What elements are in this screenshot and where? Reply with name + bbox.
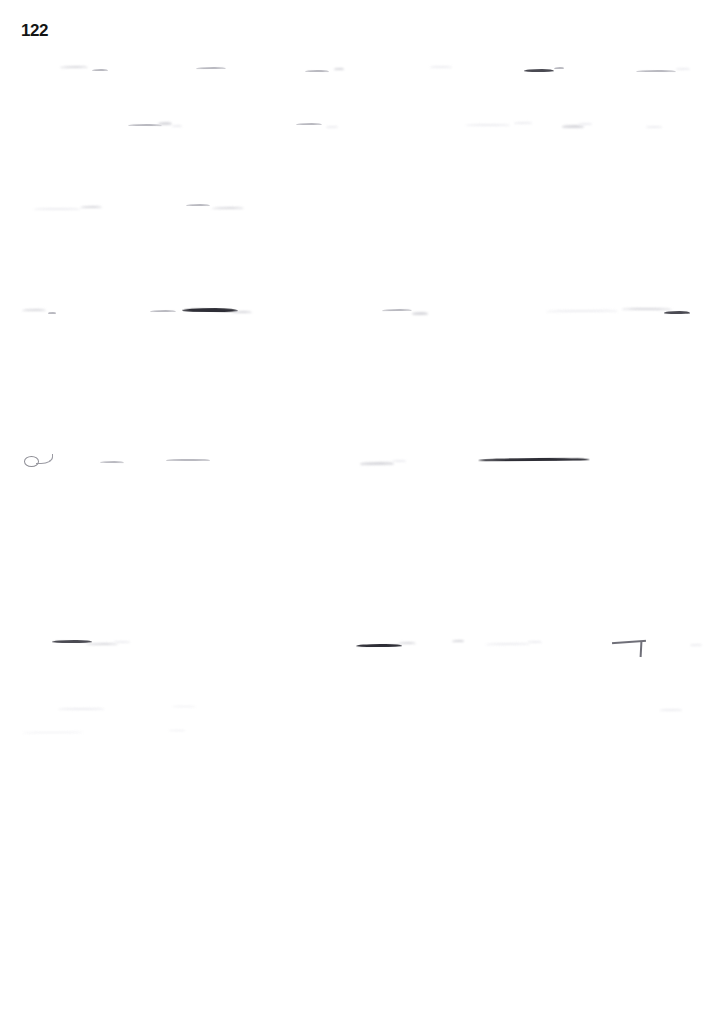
- ink-smudge: [326, 126, 338, 128]
- ink-smudge: [58, 708, 104, 710]
- ink-smudge: [646, 126, 662, 128]
- ink-smudge: [305, 70, 329, 73]
- ink-smudge: [22, 309, 46, 312]
- ink-smudge: [22, 732, 84, 734]
- ink-smudge: [546, 310, 618, 312]
- ink-smudge: [562, 125, 584, 128]
- ink-smudge: [382, 309, 412, 311]
- ink-smudge: [478, 458, 590, 462]
- ink-smudge: [172, 125, 182, 127]
- ink-smudge: [166, 459, 210, 461]
- ink-smudge: [636, 70, 676, 72]
- ink-smudge: [48, 312, 56, 314]
- ink-smudge: [52, 640, 92, 643]
- faded-text-line: [0, 116, 725, 134]
- ink-smudge: [182, 308, 238, 313]
- faded-text-line: [0, 700, 725, 718]
- faded-text-line: [0, 60, 725, 78]
- ink-smudge: [466, 124, 510, 126]
- faded-text-line: [0, 302, 725, 320]
- faded-text-line: [0, 722, 725, 740]
- ink-smudge: [114, 641, 130, 643]
- ink-smudge: [622, 308, 672, 311]
- faded-text-line: [0, 198, 725, 216]
- ink-smudge: [34, 208, 80, 210]
- ink-smudge: [92, 69, 108, 71]
- ink-smudge: [196, 67, 226, 69]
- ink-smudge: [664, 311, 690, 314]
- loop-tail-stroke: [36, 454, 53, 464]
- ink-smudge: [360, 462, 394, 465]
- page-number: 122: [21, 22, 48, 39]
- faded-text-line: [0, 634, 725, 652]
- ink-smudge: [528, 641, 542, 643]
- ink-smudge: [296, 123, 322, 125]
- faded-text-line: [0, 452, 725, 470]
- ink-smudge: [690, 644, 702, 646]
- ink-smudge: [172, 706, 196, 708]
- ink-smudge: [60, 66, 88, 68]
- ink-smudge: [158, 122, 172, 125]
- ink-smudge: [168, 730, 186, 731]
- ink-smudge: [578, 123, 592, 125]
- ink-smudge: [80, 206, 102, 208]
- ink-smudge: [676, 68, 690, 70]
- ink-smudge: [334, 68, 344, 70]
- ink-smudge: [212, 207, 244, 209]
- ink-smudge: [524, 69, 554, 72]
- angular-ink-descender: [640, 642, 643, 657]
- ink-smudge: [356, 644, 402, 648]
- ink-smudge: [150, 310, 176, 312]
- ink-smudge: [452, 640, 464, 642]
- ink-smudge: [486, 643, 530, 645]
- ink-smudge: [392, 460, 406, 462]
- ink-smudge: [412, 312, 428, 315]
- ink-smudge: [660, 709, 682, 711]
- ink-smudge: [186, 204, 210, 206]
- ink-smudge: [100, 461, 124, 463]
- ink-smudge: [398, 642, 416, 644]
- ink-smudge: [232, 311, 252, 313]
- ink-smudge: [86, 643, 118, 645]
- ink-smudge: [514, 122, 532, 124]
- ink-smudge: [554, 67, 564, 69]
- scanned-page: 122: [0, 0, 725, 1032]
- ink-smudge: [430, 66, 452, 68]
- ink-smudge: [128, 124, 162, 126]
